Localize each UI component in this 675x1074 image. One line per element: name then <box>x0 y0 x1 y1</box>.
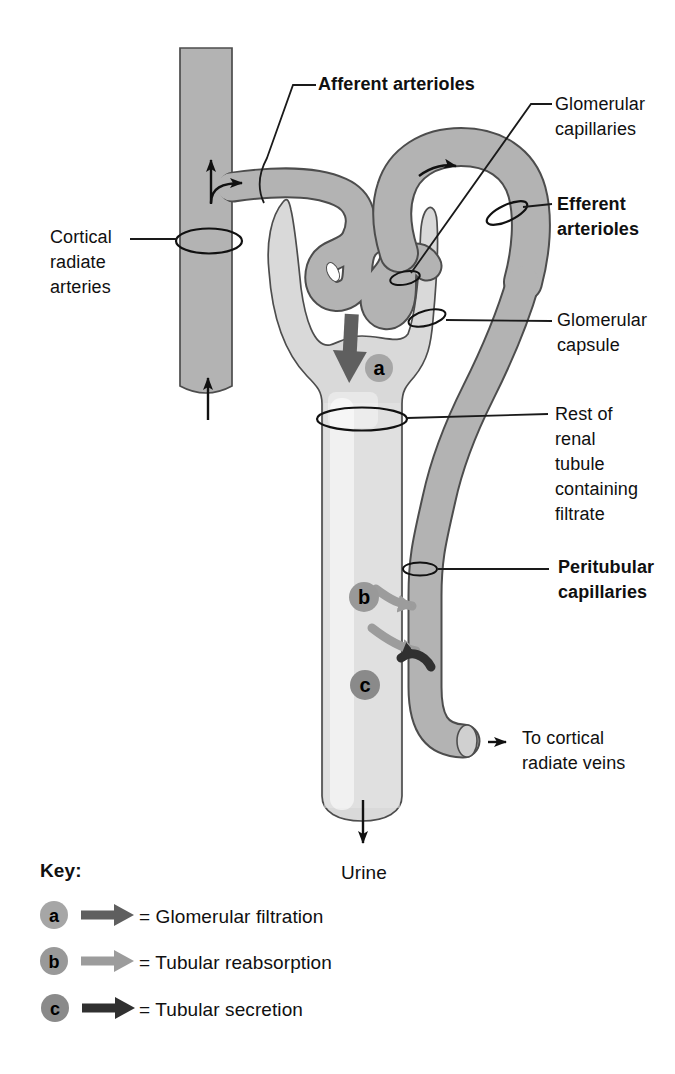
key-item-reabsorption: = Tubular reabsorption <box>139 950 332 975</box>
cortical-radiate-artery <box>180 48 232 393</box>
marker-circle-b: b <box>349 582 379 612</box>
key-arrow-secretion <box>82 997 135 1019</box>
key-arrow-filtration <box>81 904 134 926</box>
label-efferent-arterioles: Efferent arterioles <box>557 192 639 242</box>
label-peritubular-capillaries: Peritubular capillaries <box>558 555 654 605</box>
capillary-open-end <box>457 725 477 757</box>
label-glomerular-capillaries: Glomerular capillaries <box>555 92 645 142</box>
key-title: Key: <box>40 858 82 883</box>
label-to-cortical-radiate-veins: To cortical radiate veins <box>522 726 625 776</box>
key-letter-b: b <box>49 952 60 972</box>
label-urine: Urine <box>341 860 387 885</box>
label-cortical-radiate-arteries: Cortical radiate arteries <box>50 225 112 300</box>
diagram-canvas: a b c a <box>0 0 675 1074</box>
key-arrow-reabsorption <box>81 950 134 972</box>
marker-letter-c: c <box>359 674 370 696</box>
efferent-arteriole-and-peritubular-capillary <box>392 147 531 757</box>
key-item-secretion: = Tubular secretion <box>139 997 303 1022</box>
marker-letter-a: a <box>373 357 385 379</box>
label-afferent-arterioles: Afferent arterioles <box>318 72 475 97</box>
tubule-highlight <box>330 398 354 810</box>
key-letter-c: c <box>50 999 60 1019</box>
marker-circle-a: a <box>365 354 393 382</box>
key-graphics: a b c <box>40 901 135 1022</box>
label-rest-of-renal-tubule: Rest of renal tubule containing filtrate <box>555 402 638 527</box>
nephron-diagram: a b c a <box>0 0 675 1074</box>
label-glomerular-capsule: Glomerular capsule <box>557 308 647 358</box>
marker-circle-c: c <box>350 670 380 700</box>
key-letter-a: a <box>49 906 60 926</box>
marker-letter-b: b <box>358 586 370 608</box>
key-item-filtration: = Glomerular filtration <box>139 904 323 929</box>
leader-glomerular-capsule <box>446 320 552 321</box>
